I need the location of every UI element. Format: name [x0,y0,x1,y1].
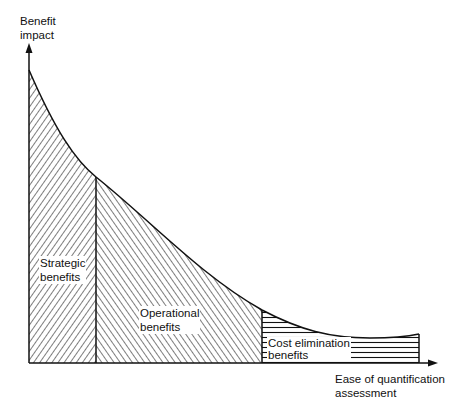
x-axis-label-line1: Ease of quantification [335,372,445,386]
operational-label-line1: Operational [140,306,199,320]
x-axis-label: Ease of quantification assessment [334,372,446,398]
y-axis-label-line1: Benefit [20,14,56,28]
strategic-label-line1: Strategic [40,256,85,270]
operational-label-line2: benefits [140,320,199,334]
strategic-label: Strategic benefits [39,256,86,284]
operational-label: Operational benefits [139,306,200,334]
y-axis-label: Benefit impact [19,14,57,42]
strategic-region [29,60,96,363]
cost-elimination-label-line2: benefits [268,349,350,361]
strategic-label-line2: benefits [40,270,85,284]
cost-elimination-region [262,60,419,363]
y-axis-label-line2: impact [20,28,56,42]
benefit-diagram [0,0,459,398]
x-axis-label-line2: assessment [335,386,445,398]
y-axis-arrow-icon [26,43,33,53]
x-axis-arrow-icon [428,360,438,367]
cost-elimination-label: Cost elimination benefits [267,337,351,361]
cost-elimination-label-line1: Cost elimination [268,337,350,349]
